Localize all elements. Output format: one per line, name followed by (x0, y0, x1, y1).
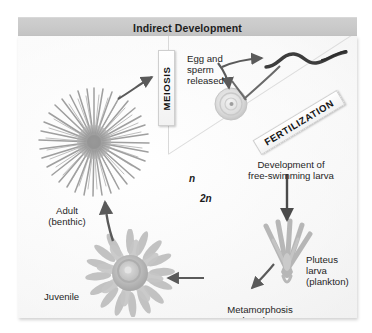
diagram-panel: MEIOSIS FERTILIZATION Egg and sperm rele… (18, 36, 357, 318)
figure-title: Indirect Development (133, 22, 242, 34)
sperm-cell-illustration (262, 45, 350, 75)
ploidy-label-diploid: 2n (200, 193, 212, 204)
ploidy-label-haploid: n (189, 173, 195, 184)
fertilization-callout: FERTILIZATION (253, 90, 346, 155)
label-adult-benthic: Adult (benthic) (28, 205, 106, 227)
egg-cell-illustration (211, 84, 251, 124)
fertilization-label: FERTILIZATION (262, 97, 335, 147)
sea-urchin-juvenile-illustration (84, 229, 176, 317)
figure-title-band: Indirect Development (18, 17, 357, 37)
label-juvenile: Juvenile (44, 291, 79, 302)
arrow-to-sperm (222, 58, 262, 67)
meiosis-callout: MEIOSIS (158, 50, 175, 126)
label-egg-sperm-released: Egg and sperm released (187, 53, 224, 86)
label-development-free-swimming-larva: Development of free-swimming larva (231, 159, 351, 181)
meiosis-label: MEIOSIS (161, 66, 172, 110)
label-metamorphosis: Metamorphosis and settlement to sea floo… (208, 304, 312, 318)
label-pluteus-larva: Pluteus larva (plankton) (306, 254, 349, 287)
sea-urchin-adult-illustration (32, 86, 156, 198)
indirect-development-figure: Indirect Development (0, 0, 372, 333)
